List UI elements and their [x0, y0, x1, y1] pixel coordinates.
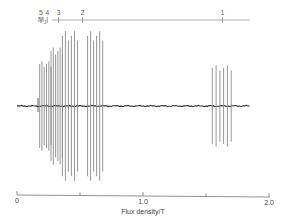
x-tick-label: 2.0: [264, 199, 274, 206]
mj-marker-label: 3: [57, 9, 61, 16]
spectrum-trace: [17, 31, 250, 180]
x-axis: 01.02.0 Flux density/T: [15, 191, 274, 216]
x-tick-label: 0: [15, 197, 19, 204]
x-tick-label: 1.0: [138, 198, 148, 205]
mj-scale-label: MJ: [38, 16, 47, 25]
mj-marker-label: 1: [220, 9, 224, 16]
x-axis-label: Flux density/T: [121, 208, 165, 216]
mj-marker-label: 4: [45, 9, 49, 16]
mj-scale: MJ 54321: [38, 9, 250, 25]
mj-marker-label: 2: [81, 9, 85, 16]
mj-marker-label: 5: [39, 9, 43, 16]
spectrum-chart: MJ 54321 01.02.0 Flux density/T: [0, 0, 289, 223]
